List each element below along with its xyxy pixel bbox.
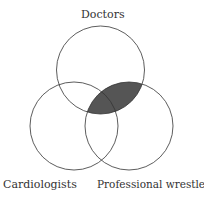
venn-diagram <box>0 0 204 201</box>
label-cardiologists: Cardiologists <box>3 178 77 191</box>
shaded-intersection-doctors-wrestlers <box>85 82 173 170</box>
label-doctors: Doctors <box>81 8 125 21</box>
label-professional-wrestlers: Professional wrestlers <box>97 178 204 190</box>
